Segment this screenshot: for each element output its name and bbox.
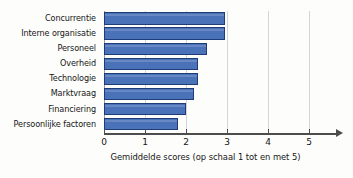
- x-tick: [186, 129, 187, 133]
- x-tick-label: 3: [217, 137, 237, 147]
- category-axis-labels: Concurrentie Interne organisatie Persone…: [0, 11, 100, 133]
- x-tick: [268, 129, 269, 133]
- x-tick-label: 0: [94, 137, 114, 147]
- plot-area: [104, 11, 326, 133]
- bar-row: [104, 117, 326, 132]
- x-tick: [104, 129, 105, 133]
- x-axis-line: [104, 133, 338, 135]
- bar-concurrentie: [104, 12, 225, 24]
- bar-row: [104, 86, 326, 101]
- x-tick-label: 1: [135, 137, 155, 147]
- bar-row: [104, 26, 326, 41]
- bar-technologie: [104, 73, 198, 85]
- bar-row: [104, 71, 326, 86]
- bar-marktvraag: [104, 88, 194, 100]
- x-tick: [309, 129, 310, 133]
- bar-chart: Concurrentie Interne organisatie Persone…: [0, 0, 353, 178]
- x-tick: [145, 129, 146, 133]
- x-axis-title: Gemiddelde scores (op schaal 1 tot en me…: [0, 152, 353, 162]
- bar-overheid: [104, 58, 198, 70]
- x-axis-arrow-icon: [336, 129, 343, 137]
- x-tick-label: 4: [258, 137, 278, 147]
- category-label: Overheid: [0, 56, 100, 71]
- bars-group: [104, 11, 326, 133]
- category-label: Concurrentie: [0, 11, 100, 26]
- bar-interne-organisatie: [104, 27, 225, 39]
- category-label: Personeel: [0, 41, 100, 56]
- category-label: Persoonlijke factoren: [0, 117, 100, 132]
- category-label: Marktvraag: [0, 86, 100, 101]
- category-label: Interne organisatie: [0, 26, 100, 41]
- x-tick: [227, 129, 228, 133]
- bar-row: [104, 41, 326, 56]
- bar-row: [104, 102, 326, 117]
- category-label: Financiering: [0, 102, 100, 117]
- bar-row: [104, 56, 326, 71]
- bar-personeel: [104, 43, 207, 55]
- x-tick-label: 2: [176, 137, 196, 147]
- x-tick-label: 5: [299, 137, 319, 147]
- category-label: Technologie: [0, 71, 100, 86]
- bar-financiering: [104, 103, 186, 115]
- bar-persoonlijke-factoren: [104, 118, 178, 130]
- bar-row: [104, 11, 326, 26]
